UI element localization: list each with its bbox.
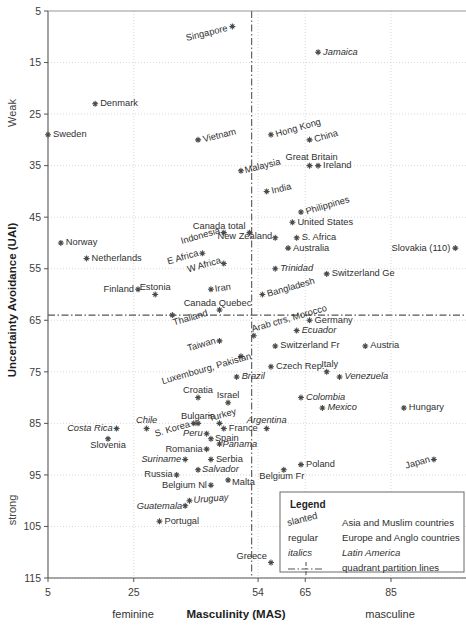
data-point[interactable]: Finland (104, 284, 142, 294)
data-point[interactable]: Croatia (183, 385, 214, 401)
data-point[interactable]: Panama (217, 439, 258, 449)
data-point-marker (431, 456, 437, 462)
data-point[interactable]: India (264, 181, 293, 196)
data-point[interactable]: Switzerland Fr (272, 340, 339, 350)
x-axis-masculine-label: masculine (365, 608, 415, 620)
legend-key-italics: italics (288, 547, 312, 558)
data-point[interactable]: Serbia (208, 454, 244, 464)
y-tick-label: 55 (29, 262, 41, 274)
data-point-marker (452, 245, 458, 251)
data-point[interactable]: Malaysia (238, 156, 282, 175)
data-point[interactable]: Norway (58, 237, 98, 247)
data-point[interactable]: Ecuador (294, 325, 338, 335)
legend-group[interactable]: LegendslantedAsia and Muslim countriesre… (280, 492, 464, 576)
data-point-marker (221, 261, 227, 267)
data-point-marker (268, 560, 274, 566)
data-point-label: Uruguay (193, 492, 230, 505)
data-point-marker (294, 235, 300, 241)
data-point[interactable]: Estonia (140, 282, 172, 298)
data-point[interactable]: Greece (236, 551, 274, 566)
data-point[interactable]: Costa Rica (67, 423, 119, 433)
data-point-marker (174, 472, 180, 478)
data-point[interactable]: Guatemala (137, 501, 188, 511)
data-point[interactable]: Singapore (185, 23, 235, 43)
data-point[interactable]: Thailand (169, 308, 209, 327)
data-point[interactable]: Slovenia (90, 436, 126, 450)
data-point-label: Austria (370, 340, 400, 350)
data-point[interactable]: Luxembourg, Pakistan (160, 351, 252, 386)
data-point-marker (195, 137, 201, 143)
data-point[interactable]: Belgium Fr (259, 467, 304, 481)
data-point[interactable]: Japan (404, 454, 437, 471)
data-point[interactable]: Taiwan (186, 336, 222, 354)
data-point-marker (324, 271, 330, 277)
data-point[interactable]: Romania (165, 444, 209, 454)
data-point[interactable]: Belgium Nl (162, 480, 214, 490)
data-point[interactable]: Austria (362, 340, 400, 350)
data-point-marker (264, 426, 270, 432)
data-point-label: Philippines (304, 194, 350, 216)
data-point-marker (208, 482, 214, 488)
x-tick-label: 65 (299, 586, 311, 598)
data-point[interactable]: Poland (298, 459, 335, 469)
data-point-label: Canada Quebec (184, 298, 252, 308)
legend-title: Legend (290, 499, 326, 510)
data-point[interactable]: Russia (144, 469, 179, 479)
data-point[interactable]: S. Africa (294, 232, 337, 242)
data-point[interactable]: Salvador (195, 464, 240, 474)
data-point-marker (225, 400, 231, 406)
data-point[interactable]: Uruguay (186, 492, 230, 505)
data-point-marker (307, 163, 313, 169)
data-point-label: Thailand (172, 308, 209, 327)
data-point[interactable]: United States (289, 217, 353, 227)
data-point[interactable]: Switzerland Ge (324, 268, 395, 278)
y-tick-label: 75 (29, 366, 41, 378)
data-point-label: Russia (144, 469, 173, 479)
data-point[interactable]: Hungary (401, 402, 444, 412)
scatter-chart: 5152535455565758595105115525546585 Singa… (0, 0, 466, 632)
data-point[interactable]: Suriname (141, 454, 188, 464)
data-point[interactable]: Philippines (298, 194, 351, 216)
data-point-label: Guatemala (137, 501, 182, 511)
data-point[interactable]: Iran (208, 282, 231, 294)
data-point[interactable]: Trinidad (272, 263, 314, 273)
data-point-label: Mexico (327, 402, 356, 412)
data-point-marker (225, 477, 231, 483)
data-point[interactable]: Peru (183, 428, 210, 438)
x-tick-label: 25 (128, 586, 140, 598)
data-point[interactable]: New Zealand (217, 231, 278, 241)
data-point[interactable]: Denmark (92, 98, 138, 108)
y-tick-label: 35 (29, 159, 41, 171)
data-point-label: China (313, 128, 340, 145)
data-point[interactable]: Vietnam (195, 126, 237, 144)
legend-desc-regular: Europe and Anglo countries (342, 532, 460, 543)
data-point[interactable]: Bangladesh (259, 276, 315, 299)
legend-desc-line: quadrant partition lines (342, 562, 439, 573)
data-point[interactable]: Mexico (319, 402, 356, 412)
data-point-label: Denmark (100, 98, 138, 108)
data-point[interactable]: Netherlands (84, 253, 142, 263)
data-point[interactable]: Jamaica (315, 47, 358, 57)
data-point-marker (152, 292, 158, 298)
data-point[interactable]: Italy (321, 359, 338, 375)
data-point[interactable]: Venezuela (337, 371, 389, 381)
data-point[interactable]: Sweden (45, 129, 87, 139)
data-point[interactable]: Brazil (234, 371, 266, 381)
x-tick-label: 5 (45, 586, 51, 598)
data-point-label: Singapore (185, 23, 229, 43)
data-point[interactable]: Israel (217, 390, 240, 406)
data-point[interactable]: Czech Rep. (268, 361, 325, 371)
data-point-marker (319, 405, 325, 411)
data-point[interactable]: Australia (285, 243, 330, 253)
data-point[interactable]: Slovakia (110) (392, 243, 459, 253)
data-point[interactable]: France (221, 423, 258, 433)
data-point[interactable]: China (307, 128, 340, 145)
data-point-marker (182, 456, 188, 462)
data-point-label: Bangladesh (266, 276, 316, 299)
data-point[interactable]: Portugal (156, 516, 199, 526)
data-point[interactable]: Malta (225, 477, 256, 487)
data-point-marker (298, 395, 304, 401)
data-point-label: Switzerland Fr (280, 340, 339, 350)
x-axis-feminine-label: feminine (112, 608, 154, 620)
data-point[interactable]: Colombia (298, 392, 345, 402)
